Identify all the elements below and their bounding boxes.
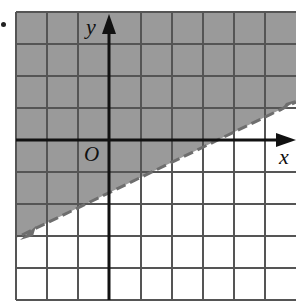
- coordinate-plane: [0, 0, 296, 306]
- x-axis-label: x: [279, 144, 289, 170]
- origin-label: O: [84, 142, 99, 167]
- item-bullet: [1, 22, 6, 27]
- y-axis-label: y: [86, 14, 96, 40]
- inequality-graph: y x O: [0, 0, 296, 306]
